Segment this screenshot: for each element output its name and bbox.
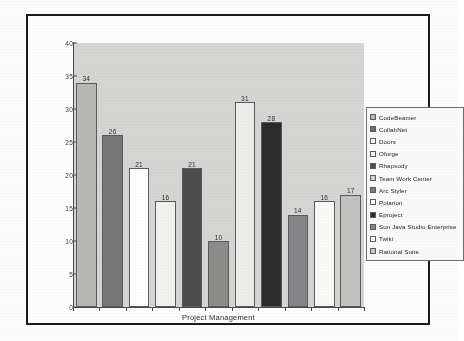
bar[interactable]: 10 [208,241,229,307]
bar-slot: 34 [73,43,99,307]
legend-swatch-icon [370,248,376,254]
y-tick-label: 35 [28,73,77,80]
bar-slot: 16 [152,43,178,307]
legend-item-label: Twiki [379,235,393,242]
legend-item-label: Arc Styler [379,187,407,194]
bar-slot: 26 [99,43,125,307]
bar-value-label: 26 [109,128,117,135]
bar[interactable]: 17 [340,195,361,307]
bar-slot: 21 [179,43,205,307]
x-tick-mark [232,307,233,311]
bar-slot: 10 [205,43,231,307]
x-tick-mark [152,307,153,311]
legend-item-label: CodeBeamer [379,114,416,121]
legend-swatch-icon [370,236,376,242]
bar-value-label: 28 [268,115,276,122]
bar-value-label: 17 [347,187,355,194]
legend-swatch-icon [370,187,376,193]
chart-legend: CodeBeamerCollabNetDoorsOforgeRhapsodyTe… [366,107,464,261]
legend-item-label: Rational Suite [379,248,419,255]
x-axis-line [73,307,365,308]
bar-value-label: 14 [294,207,302,214]
y-tick-label: 0 [28,304,77,311]
x-tick-mark [364,307,365,311]
legend-item-label: CollabNet [379,126,407,133]
bar-slot: 17 [338,43,364,307]
legend-item-label: Rhapsody [379,162,408,169]
legend-item-label: Oforge [379,150,399,157]
legend-item[interactable]: Arc Styler [370,184,461,196]
x-tick-mark [205,307,206,311]
bar-value-label: 10 [215,234,223,241]
x-tick-mark [311,307,312,311]
y-tick-label: 25 [28,139,77,146]
legend-item[interactable]: Polarion [370,196,461,208]
bar[interactable]: 34 [76,83,97,307]
bar[interactable]: 21 [129,168,150,307]
bar-group: 3426211621103128141617 [73,43,364,307]
legend-item[interactable]: Twiki [370,233,461,245]
bar[interactable]: 16 [155,201,176,307]
legend-swatch-icon [370,114,376,120]
legend-swatch-icon [370,175,376,181]
legend-item[interactable]: Eproject [370,209,461,221]
x-tick-mark [73,307,74,311]
y-tick-label: 15 [28,205,77,212]
bar-slot: 14 [285,43,311,307]
x-tick-mark [285,307,286,311]
chart-frame: 0510152025303540 3426211621103128141617 … [26,14,430,325]
legend-item[interactable]: Team Work Center [370,172,461,184]
legend-item-label: Team Work Center [379,175,432,182]
legend-swatch-icon [370,199,376,205]
x-tick-mark [99,307,100,311]
y-tick-label: 30 [28,106,77,113]
x-axis-label: Project Management [73,313,364,322]
bar[interactable]: 16 [314,201,335,307]
bar[interactable]: 14 [288,215,309,307]
legend-item-label: Sun Java Studio Enterprise [379,223,457,230]
legend-swatch-icon [370,138,376,144]
bar-value-label: 31 [241,95,249,102]
bar-slot: 28 [258,43,284,307]
y-tick-label: 20 [28,172,77,179]
bar[interactable]: 28 [261,122,282,307]
legend-item-label: Polarion [379,199,403,206]
bar-slot: 31 [232,43,258,307]
legend-item[interactable]: CodeBeamer [370,111,461,123]
x-tick-mark [179,307,180,311]
legend-item[interactable]: Sun Java Studio Enterprise [370,221,461,233]
legend-swatch-icon [370,163,376,169]
legend-item-label: Doors [379,138,396,145]
legend-item[interactable]: Rational Suite [370,245,461,257]
legend-item[interactable]: Rhapsody [370,160,461,172]
bar-value-label: 16 [320,194,328,201]
bar-value-label: 21 [188,161,196,168]
legend-item-label: Eproject [379,211,403,218]
x-tick-mark [126,307,127,311]
legend-item[interactable]: CollabNet [370,123,461,135]
y-tick-label: 10 [28,238,77,245]
bar[interactable]: 31 [235,102,256,307]
bar[interactable]: 21 [182,168,203,307]
legend-swatch-icon [370,212,376,218]
bar-slot: 16 [311,43,337,307]
bar[interactable]: 26 [102,135,123,307]
legend-item[interactable]: Oforge [370,148,461,160]
legend-swatch-icon [370,126,376,132]
bar-slot: 21 [126,43,152,307]
legend-item[interactable]: Doors [370,135,461,147]
legend-swatch-icon [370,224,376,230]
bar-value-label: 34 [82,75,90,82]
x-tick-mark [258,307,259,311]
bar-value-label: 21 [135,161,143,168]
y-tick-label: 40 [28,40,77,47]
x-tick-mark [338,307,339,311]
bar-value-label: 16 [162,194,170,201]
legend-swatch-icon [370,151,376,157]
y-tick-label: 5 [28,271,77,278]
